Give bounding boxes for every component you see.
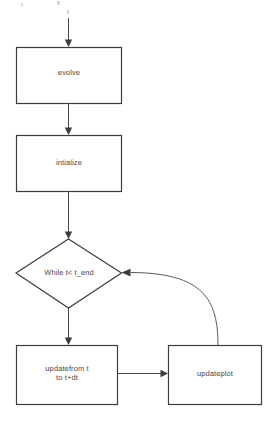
edge-while-to-update xyxy=(65,308,72,345)
edge-updateplot-to-while-feedback xyxy=(122,269,219,346)
edge-update-to-updateplot xyxy=(118,370,169,377)
edge-evolve-to-intialize xyxy=(65,104,72,136)
node-evolve xyxy=(17,48,122,104)
flowchart-graphics xyxy=(0,0,277,425)
node-intialize xyxy=(17,136,122,192)
scan-speck xyxy=(67,10,69,14)
scan-speck xyxy=(21,3,23,6)
edge-intialize-to-while xyxy=(65,192,72,240)
edge-start-to-evolve xyxy=(65,18,72,47)
node-update xyxy=(17,346,118,405)
scan-speck xyxy=(57,1,60,5)
flowchart-canvas: evolve intialize While t< t_end updatefr… xyxy=(0,0,277,425)
node-while-decision xyxy=(16,239,122,308)
node-updateplot xyxy=(169,346,262,405)
